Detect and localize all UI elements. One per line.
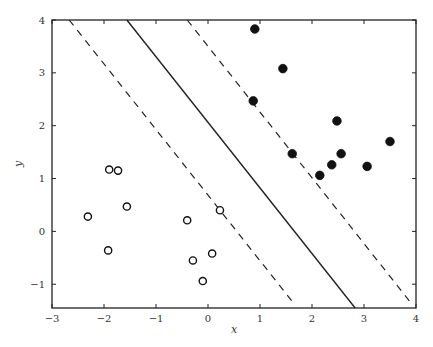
y-tick-label: 4 [39,15,45,26]
plot-frame [52,20,416,308]
class-positive-point [386,137,395,146]
x-tick-label: 1 [257,313,263,324]
data-points [84,25,394,285]
class-negative-point [216,207,223,214]
class-negative-point [106,166,113,173]
x-tick-label: 3 [361,313,367,324]
class-positive-point [333,117,342,126]
margin-upper-line [187,20,411,303]
y-axis-label: y [12,160,25,168]
decision-boundary-line [127,20,355,308]
class-positive-point [327,160,336,169]
margin-lower-line [69,20,293,303]
y-tick-label: −1 [30,279,45,290]
x-tick-label: 2 [309,313,315,324]
class-negative-point [199,277,206,284]
x-axis-ticks: −3−2−101234 [45,20,420,324]
class-positive-point [337,149,346,158]
x-tick-label: 0 [205,313,211,324]
class-positive-point [316,171,325,180]
class-positive-point [251,25,260,34]
class-negative-point [184,217,191,224]
x-tick-label: 4 [413,313,419,324]
y-tick-label: 0 [39,226,45,237]
class-positive-point [249,97,258,106]
class-positive-point [279,64,288,73]
class-positive-point [363,162,372,171]
x-tick-label: −1 [149,313,164,324]
class-negative-point [105,247,112,254]
class-negative-point [123,203,130,210]
class-negative-point [114,167,121,174]
y-tick-label: 3 [39,67,45,78]
class-negative-point [84,213,91,220]
x-tick-label: −3 [45,313,60,324]
y-axis-ticks: −101234 [30,15,416,290]
x-tick-label: −2 [97,313,112,324]
margin-lines [69,20,411,308]
class-negative-point [209,250,216,257]
y-tick-label: 2 [39,120,45,131]
x-axis-label: x [231,323,238,336]
svm-scatter-chart: −3−2−101234 −101234 x y [0,0,433,347]
y-tick-label: 1 [39,173,45,184]
class-positive-point [288,149,297,158]
class-negative-point [189,257,196,264]
